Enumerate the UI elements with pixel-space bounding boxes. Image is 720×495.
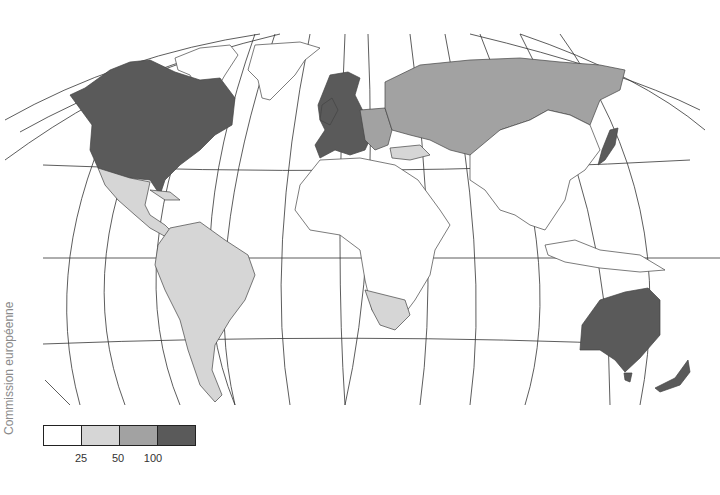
region-greenland[interactable] [248, 42, 320, 100]
region-north-america[interactable] [70, 60, 235, 195]
legend-tick-50: 50 [112, 452, 124, 464]
legend [43, 425, 196, 446]
region-southeast-asia-islands[interactable] [545, 240, 665, 272]
region-japan[interactable] [598, 128, 618, 165]
region-south-america[interactable] [155, 222, 255, 402]
legend-tick-25: 25 [75, 452, 87, 464]
legend-box-class-0 [44, 426, 82, 445]
legend-box-class-1 [82, 426, 120, 445]
legend-box-class-3 [158, 426, 195, 445]
region-turkey[interactable] [390, 145, 430, 160]
region-caribbean[interactable] [150, 190, 180, 200]
region-australia[interactable] [580, 288, 660, 372]
region-tasmania[interactable] [624, 373, 632, 382]
map-credit: Commission européenne [2, 302, 16, 435]
legend-tick-100: 100 [144, 452, 162, 464]
legend-box-class-2 [120, 426, 158, 445]
world-map [0, 0, 720, 495]
region-new-zealand[interactable] [655, 360, 690, 392]
